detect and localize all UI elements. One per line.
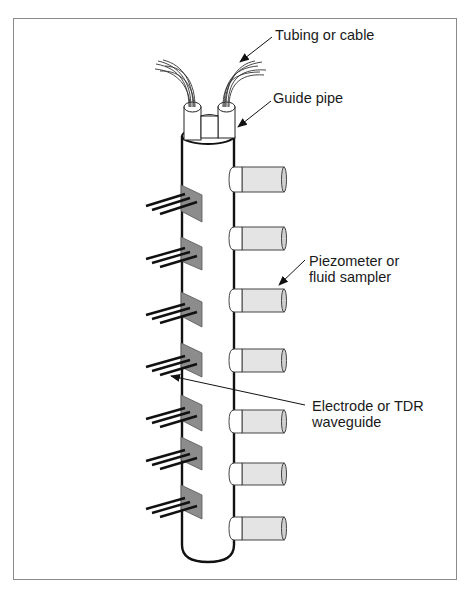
label-piezometer-line1: Piezometer or — [309, 253, 399, 269]
well-diagram-svg — [0, 0, 469, 593]
piezometer-3 — [229, 289, 287, 312]
label-electrode-line2: waveguide — [312, 414, 381, 430]
piezometer-1 — [229, 167, 287, 192]
piezometers — [229, 167, 287, 540]
top-tubes — [184, 102, 235, 140]
label-electrode-line1: Electrode or TDR — [312, 398, 424, 414]
leader-guide-pipe — [238, 101, 271, 127]
piezometer-4 — [229, 349, 287, 372]
label-guide-pipe: Guide pipe — [273, 90, 343, 106]
piezometer-2 — [229, 227, 287, 250]
leader-piezometer — [279, 260, 305, 285]
piezometer-5 — [229, 410, 287, 433]
tubing-cables — [155, 60, 266, 107]
piezometer-6 — [229, 463, 287, 485]
diagram-figure: Tubing or cable Guide pipe Piezometer or… — [0, 0, 469, 593]
piezometer-7 — [229, 517, 287, 540]
label-tubing-or-cable: Tubing or cable — [275, 27, 374, 43]
label-piezometer-line2: fluid sampler — [309, 269, 391, 285]
leader-tubing — [240, 37, 272, 62]
